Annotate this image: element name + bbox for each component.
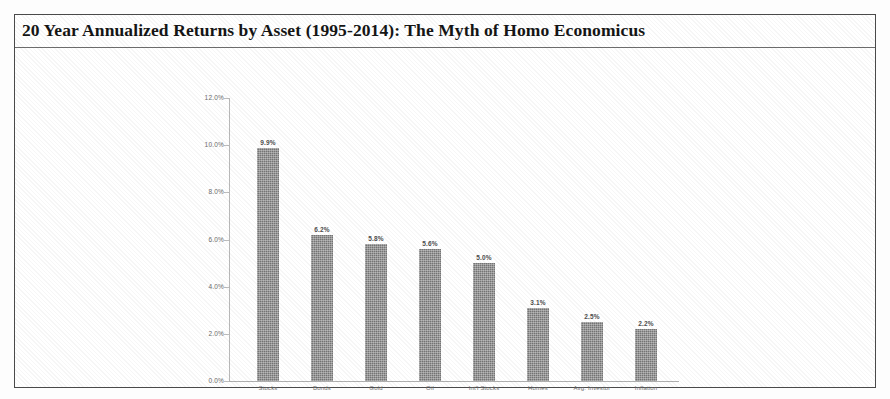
y-axis-tick-mark — [224, 287, 229, 288]
title-band: 20 Year Annualized Returns by Asset (199… — [15, 15, 875, 48]
y-axis-tick: 6.0% — [181, 240, 224, 241]
y-axis-tick: 4.0% — [181, 287, 224, 288]
x-axis-category-label: Avg. Investor — [561, 385, 623, 391]
y-axis-tick-mark — [224, 381, 229, 382]
bar-value-label: 2.5% — [584, 313, 600, 320]
plot-region: 0.0%2.0%4.0%6.0%8.0%10.0%12.0% 9.9%6.2%5… — [15, 48, 877, 388]
bar — [581, 322, 603, 381]
bar — [527, 308, 549, 381]
y-axis-tick-mark — [224, 334, 229, 335]
y-axis-tick-label: 4.0% — [190, 283, 224, 290]
y-axis-tick: 2.0% — [181, 334, 224, 335]
x-axis-category-label: Int'l Stocks — [453, 385, 515, 391]
y-axis-line — [229, 98, 230, 382]
y-axis-tick-label: 12.0% — [190, 94, 224, 101]
bar — [311, 235, 333, 381]
scanned-page: 20 Year Annualized Returns by Asset (199… — [0, 0, 890, 399]
x-axis-category-label: Bonds — [291, 385, 353, 391]
bar — [635, 329, 657, 381]
x-axis-category-label: Oil — [399, 385, 461, 391]
bar-value-label: 5.6% — [422, 240, 438, 247]
x-axis-category-label: Inflation — [615, 385, 677, 391]
y-axis-tick-mark — [224, 145, 229, 146]
y-axis-tick-label: 6.0% — [190, 236, 224, 243]
x-axis-category-label: Stocks — [237, 385, 299, 391]
bar — [257, 148, 279, 381]
y-axis-tick: 8.0% — [181, 192, 224, 193]
bar — [365, 244, 387, 381]
y-axis-tick-mark — [224, 98, 229, 99]
y-axis-tick: 0.0% — [181, 381, 224, 382]
bar-value-label: 2.2% — [638, 320, 654, 327]
x-axis-line — [229, 381, 679, 382]
bar-value-label: 9.9% — [260, 139, 276, 146]
y-axis-tick-mark — [224, 192, 229, 193]
y-axis-tick-label: 2.0% — [190, 330, 224, 337]
bar-value-label: 5.0% — [476, 254, 492, 261]
y-axis-tick-label: 8.0% — [190, 188, 224, 195]
bar — [419, 249, 441, 381]
bar-value-label: 3.1% — [530, 299, 546, 306]
bar-value-label: 6.2% — [314, 226, 330, 233]
y-axis-tick-label: 10.0% — [190, 141, 224, 148]
bar — [473, 263, 495, 381]
y-axis-tick: 10.0% — [181, 145, 224, 146]
page-title: 20 Year Annualized Returns by Asset (199… — [22, 20, 645, 41]
y-axis-tick-mark — [224, 240, 229, 241]
x-axis-category-label: Gold — [345, 385, 407, 391]
bar-value-label: 5.8% — [368, 235, 384, 242]
y-axis-tick: 12.0% — [181, 98, 224, 99]
x-axis-category-label: Homes — [507, 385, 569, 391]
figure-frame: 20 Year Annualized Returns by Asset (199… — [14, 14, 876, 388]
y-axis-tick-label: 0.0% — [190, 377, 224, 384]
